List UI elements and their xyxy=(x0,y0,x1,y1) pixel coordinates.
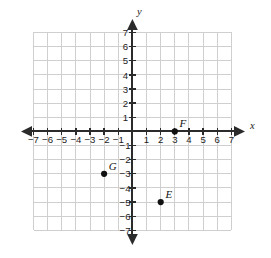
x-axis-tick-labels-positive: 1 2 3 4 5 6 7 xyxy=(144,134,234,145)
y-tick-label-4: 4 xyxy=(123,70,129,81)
y-axis-tick-labels-positive: 7 6 5 4 3 2 1 xyxy=(123,27,129,123)
y-tick-label-3: 3 xyxy=(123,84,128,95)
x-axis-arrow-right xyxy=(234,126,245,137)
y-axis-tick-labels-negative: −1 −2 −3 −4 −5 −6 −7 xyxy=(120,140,132,236)
x-tick-label-neg2: −2 xyxy=(99,134,110,145)
y-tick-label-neg1: −1 xyxy=(120,140,131,151)
x-tick-label-neg3: −3 xyxy=(85,134,96,145)
y-tick-label-1: 1 xyxy=(123,112,128,123)
y-tick-label-5: 5 xyxy=(123,55,128,66)
y-tick-label-2: 2 xyxy=(123,98,128,109)
coordinate-plane-figure: −7 −6 −5 −4 −3 −2 −1 1 2 3 4 5 6 7 7 6 5… xyxy=(0,0,271,258)
x-axis-tick-labels-negative: −7 −6 −5 −4 −3 −2 −1 xyxy=(28,134,124,145)
point-marker-g xyxy=(101,171,107,177)
x-tick-label-6: 6 xyxy=(215,134,220,145)
point-marker-f xyxy=(172,128,178,134)
x-tick-label-2: 2 xyxy=(158,134,163,145)
y-tick-label-6: 6 xyxy=(123,41,128,52)
y-axis-arrow-up xyxy=(127,19,138,30)
x-tick-label-1: 1 xyxy=(144,134,149,145)
y-tick-label-neg2: −2 xyxy=(120,154,131,165)
x-tick-label-neg6: −6 xyxy=(42,134,53,145)
y-tick-label-neg4: −4 xyxy=(120,183,132,194)
x-tick-label-neg4: −4 xyxy=(70,134,82,145)
point-marker-e xyxy=(158,199,164,205)
y-tick-label-neg3: −3 xyxy=(120,168,131,179)
point-label-g: G xyxy=(109,160,117,172)
point-label-e: E xyxy=(164,188,172,200)
x-tick-label-7: 7 xyxy=(229,134,234,145)
y-tick-label-neg6: −6 xyxy=(120,211,131,222)
coordinate-plane-graph: −7 −6 −5 −4 −3 −2 −1 1 2 3 4 5 6 7 7 6 5… xyxy=(0,0,271,258)
x-tick-label-neg7: −7 xyxy=(28,134,39,145)
x-tick-label-3: 3 xyxy=(172,134,177,145)
x-tick-label-4: 4 xyxy=(186,134,192,145)
y-tick-label-7: 7 xyxy=(123,27,128,38)
x-axis-label: x xyxy=(249,120,255,131)
y-axis-label: y xyxy=(136,6,142,17)
y-tick-label-neg7: −7 xyxy=(120,225,131,236)
point-label-f: F xyxy=(179,117,187,129)
x-tick-label-5: 5 xyxy=(200,134,205,145)
y-tick-label-neg5: −5 xyxy=(120,197,131,208)
x-tick-label-neg5: −5 xyxy=(56,134,67,145)
